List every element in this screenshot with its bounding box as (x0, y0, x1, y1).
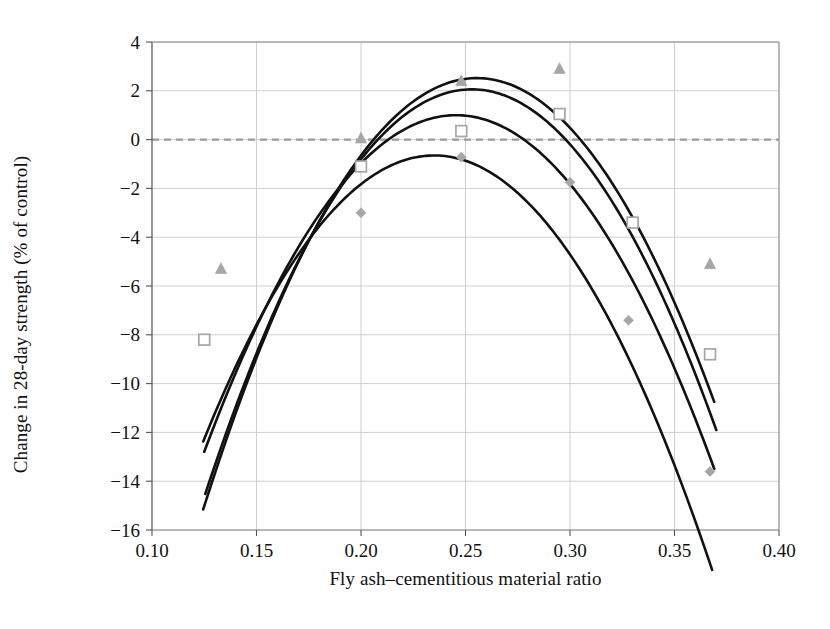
data-point-triangle-marker (554, 63, 565, 74)
x-axis-label-text: Fly ash–cementitious material ratio (329, 568, 601, 590)
data-point-diamond-marker (624, 315, 634, 325)
y-tick-label: 2 (131, 80, 141, 101)
x-axis-ticks: 0.100.150.200.250.300.350.40 (135, 530, 795, 561)
data-point-triangle-marker (704, 258, 715, 269)
markers-curve-4 (356, 152, 715, 476)
data-point-triangle-marker (215, 263, 226, 274)
y-tick-label: −6 (120, 276, 140, 297)
data-point-square-marker (456, 126, 467, 137)
x-axis-label: Fly ash–cementitious material ratio (152, 566, 779, 592)
trend-curve-curve-3 (204, 115, 714, 469)
y-tick-label: −10 (110, 373, 140, 394)
x-tick-label: 0.40 (762, 540, 795, 561)
x-tick-label: 0.25 (449, 540, 482, 561)
y-tick-label: −14 (110, 471, 140, 492)
series-group-curve-4 (203, 152, 715, 570)
y-tick-label: −2 (120, 178, 140, 199)
data-point-square-marker (554, 109, 565, 120)
data-point-triangle-marker (355, 132, 366, 143)
x-tick-label: 0.15 (240, 540, 273, 561)
y-axis-ticks: 420−2−4−6−8−10−12−14−16 (110, 32, 152, 541)
data-point-square-marker (199, 334, 210, 345)
data-point-diamond-marker (356, 208, 366, 218)
trend-curve-curve-1 (203, 78, 714, 509)
data-point-square-marker (627, 217, 638, 228)
y-tick-label: 4 (131, 32, 141, 53)
plot-area: 420−2−4−6−8−10−12−14−160.100.150.200.250… (0, 0, 830, 629)
data-point-square-marker (356, 161, 367, 172)
data-point-square-marker (705, 349, 716, 360)
x-tick-label: 0.35 (658, 540, 691, 561)
y-tick-label: −12 (110, 422, 140, 443)
x-tick-label: 0.30 (553, 540, 586, 561)
y-tick-label: 0 (131, 129, 141, 150)
x-tick-label: 0.20 (344, 540, 377, 561)
y-tick-label: −8 (120, 324, 140, 345)
y-tick-label: −16 (110, 520, 140, 541)
chart-figure: 420−2−4−6−8−10−12−14−160.100.150.200.250… (0, 0, 830, 629)
x-tick-label: 0.10 (135, 540, 168, 561)
y-tick-label: −4 (120, 227, 141, 248)
markers-curve-3 (199, 109, 716, 360)
